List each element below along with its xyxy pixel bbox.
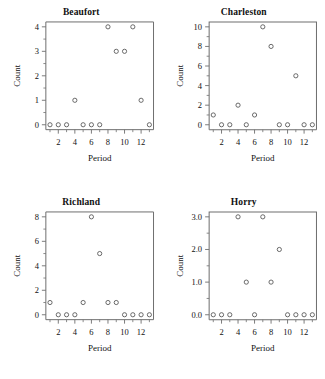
x-tick-label: 8 — [268, 326, 272, 336]
y-tick-label: 2 — [197, 100, 201, 110]
data-point — [277, 123, 281, 127]
x-tick-label: 2 — [219, 137, 223, 147]
x-tick-label: 8 — [106, 326, 110, 336]
panel-horry: Horry 0.01.02.03.024681012PeriodCount — [163, 190, 325, 379]
data-point — [122, 49, 126, 53]
plot-beaufort: 0123424681012PeriodCount — [0, 0, 163, 190]
data-point — [301, 123, 305, 127]
x-tick-label: 2 — [56, 326, 60, 336]
data-point — [244, 123, 248, 127]
x-tick-label: 10 — [120, 137, 128, 147]
y-tick-label: 4 — [35, 22, 40, 32]
y-tick-label: 2 — [35, 71, 39, 81]
data-point — [139, 312, 143, 316]
y-axis-title: Count — [175, 254, 185, 276]
x-tick-label: 12 — [137, 137, 145, 147]
x-axis-title: Period — [251, 153, 275, 163]
data-point — [268, 44, 272, 48]
data-point — [301, 312, 305, 316]
y-tick-label: 1 — [35, 95, 39, 105]
data-point — [235, 103, 239, 107]
data-point — [260, 214, 264, 218]
y-tick-label: 0 — [35, 309, 39, 319]
data-point — [114, 49, 118, 53]
x-axis-title: Period — [88, 153, 112, 163]
data-point — [268, 280, 272, 284]
plot-horry: 0.01.02.03.024681012PeriodCount — [163, 190, 325, 379]
y-axis-title: Count — [12, 64, 22, 86]
data-point — [122, 312, 126, 316]
data-point — [98, 123, 102, 127]
data-point — [48, 300, 52, 304]
data-point — [147, 312, 151, 316]
x-tick-label: 10 — [120, 326, 128, 336]
data-point — [285, 312, 289, 316]
data-point — [106, 25, 110, 29]
y-tick-label: 8 — [197, 41, 201, 51]
y-tick-label: 0 — [35, 120, 39, 130]
data-point — [147, 123, 151, 127]
y-tick-label: 2.0 — [191, 244, 202, 254]
x-tick-label: 8 — [106, 137, 110, 147]
data-point — [277, 247, 281, 251]
data-point — [131, 312, 135, 316]
y-tick-label: 1.0 — [191, 277, 202, 287]
x-tick-label: 4 — [73, 137, 78, 147]
data-point — [98, 251, 102, 255]
y-tick-label: 0.0 — [191, 309, 202, 319]
x-axis-title: Period — [88, 342, 112, 352]
data-point — [235, 214, 239, 218]
data-point — [293, 312, 297, 316]
data-point — [106, 300, 110, 304]
y-tick-label: 6 — [35, 236, 39, 246]
y-axis-title: Count — [175, 64, 185, 86]
data-point — [56, 123, 60, 127]
x-tick-label: 4 — [235, 326, 240, 336]
y-tick-label: 2 — [35, 285, 39, 295]
x-tick-label: 2 — [56, 137, 60, 147]
data-point — [139, 98, 143, 102]
data-point — [73, 98, 77, 102]
data-point — [81, 300, 85, 304]
data-point — [310, 123, 314, 127]
y-tick-label: 0 — [197, 120, 201, 130]
data-point — [260, 25, 264, 29]
data-point — [64, 123, 68, 127]
plot-charleston: 024681024681012PeriodCount — [163, 0, 325, 190]
data-point — [219, 123, 223, 127]
y-tick-label: 3.0 — [191, 211, 202, 221]
x-tick-label: 6 — [89, 137, 93, 147]
panel-charleston: Charleston 024681024681012PeriodCount — [163, 0, 325, 190]
data-point — [73, 312, 77, 316]
x-axis-title: Period — [251, 342, 275, 352]
data-point — [211, 312, 215, 316]
y-tick-label: 10 — [193, 22, 202, 32]
plot-richland: 0246824681012PeriodCount — [0, 190, 163, 379]
data-point — [244, 280, 248, 284]
data-point — [310, 312, 314, 316]
x-tick-label: 8 — [268, 137, 272, 147]
data-point — [219, 312, 223, 316]
x-tick-label: 10 — [283, 137, 292, 147]
data-point — [114, 300, 118, 304]
y-axis-title: Count — [12, 254, 22, 276]
x-tick-label: 4 — [73, 326, 78, 336]
data-point — [227, 312, 231, 316]
panel-richland: Richland 0246824681012PeriodCount — [0, 190, 163, 379]
x-tick-label: 12 — [299, 137, 308, 147]
data-point — [81, 123, 85, 127]
x-tick-label: 6 — [89, 326, 93, 336]
data-point — [56, 312, 60, 316]
y-tick-label: 8 — [35, 211, 39, 221]
scatter-panel-figure: Beaufort 0123424681012PeriodCount Charle… — [0, 0, 325, 379]
panel-beaufort: Beaufort 0123424681012PeriodCount — [0, 0, 163, 190]
data-point — [48, 123, 52, 127]
data-point — [211, 113, 215, 117]
data-point — [285, 123, 289, 127]
y-tick-label: 6 — [197, 61, 201, 71]
data-point — [252, 312, 256, 316]
x-tick-label: 12 — [299, 326, 308, 336]
data-point — [89, 123, 93, 127]
x-tick-label: 6 — [252, 326, 256, 336]
y-tick-label: 4 — [197, 81, 202, 91]
